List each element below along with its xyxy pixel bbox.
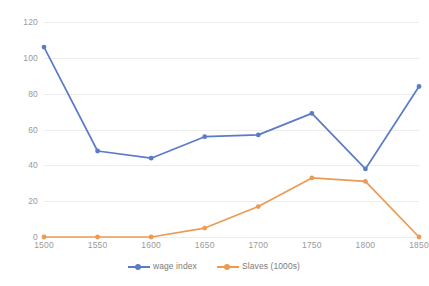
data-point — [202, 134, 207, 139]
chart-legend: wage indexSlaves (1000s) — [0, 262, 428, 271]
data-point — [256, 132, 261, 137]
data-point — [42, 235, 47, 240]
data-point — [95, 235, 100, 240]
x-tick-label: 1850 — [409, 241, 429, 250]
series-line — [44, 178, 419, 237]
y-tick-label: 120 — [4, 18, 38, 27]
data-point — [417, 235, 422, 240]
series-line — [44, 47, 419, 169]
x-tick-label: 1600 — [141, 241, 161, 250]
y-tick-label: 80 — [4, 89, 38, 98]
y-axis: 020406080100120 — [0, 22, 38, 237]
y-tick-label: 20 — [4, 197, 38, 206]
x-tick-label: 1650 — [195, 241, 215, 250]
data-point — [309, 175, 314, 180]
legend-label: Slaves (1000s) — [242, 262, 300, 271]
data-point — [417, 84, 422, 89]
legend-label: wage index — [153, 262, 197, 271]
legend-swatch-icon — [128, 262, 150, 271]
x-tick-label: 1550 — [88, 241, 108, 250]
data-point — [42, 45, 47, 50]
data-point — [149, 235, 154, 240]
y-tick-label: 0 — [4, 233, 38, 242]
y-tick-label: 60 — [4, 125, 38, 134]
data-point — [149, 156, 154, 161]
data-point — [95, 149, 100, 154]
plot-area — [44, 22, 419, 237]
x-tick-label: 1500 — [34, 241, 54, 250]
y-tick-label: 100 — [4, 54, 38, 63]
series-wage-index — [42, 45, 422, 172]
data-point — [363, 167, 368, 172]
data-point — [363, 179, 368, 184]
y-tick-label: 40 — [4, 161, 38, 170]
x-tick-label: 1750 — [302, 241, 322, 250]
x-axis: 15001550160016501700175018001850 — [44, 241, 419, 255]
legend-swatch-icon — [217, 262, 239, 271]
data-point — [202, 226, 207, 231]
series-slaves-1000s — [42, 175, 422, 239]
data-point — [256, 204, 261, 209]
legend-item-slaves-1000s[interactable]: Slaves (1000s) — [217, 262, 300, 271]
x-tick-label: 1700 — [248, 241, 268, 250]
data-point — [309, 111, 314, 116]
legend-item-wage-index[interactable]: wage index — [128, 262, 197, 271]
series-layer — [44, 22, 419, 237]
x-tick-label: 1800 — [356, 241, 376, 250]
